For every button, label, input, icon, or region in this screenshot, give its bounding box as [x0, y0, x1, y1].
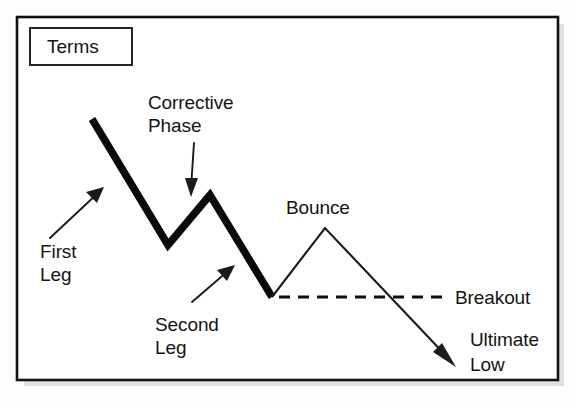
terms-diagram: Terms First Leg Corrective Phase Seco: [0, 0, 576, 406]
terms-box-label: Terms: [47, 36, 99, 57]
ultimate-low-label-line2: Low: [470, 354, 505, 375]
corrective-phase-label-line1: Corrective: [148, 92, 234, 113]
second-leg-label-line2: Leg: [155, 337, 186, 358]
bounce-label: Bounce: [286, 197, 350, 218]
corrective-phase-label-line2: Phase: [148, 115, 201, 136]
breakout-label: Breakout: [455, 287, 531, 308]
diagram-canvas: Terms First Leg Corrective Phase Seco: [0, 0, 576, 406]
ultimate-low-label-line1: Ultimate: [470, 329, 539, 350]
first-leg-label-line1: First: [40, 241, 77, 262]
second-leg-label-line1: Second: [155, 314, 219, 335]
terms-box: Terms: [30, 28, 132, 65]
first-leg-label-line2: Leg: [40, 264, 71, 285]
